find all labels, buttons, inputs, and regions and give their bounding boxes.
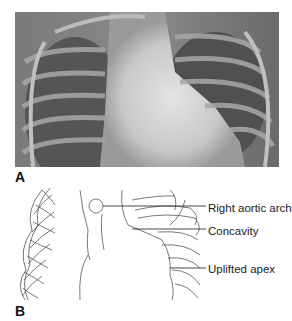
chest-radiograph-image (15, 12, 279, 167)
aortic-arch-circle (89, 199, 103, 213)
annotation-right-aortic-arch: Right aortic arch (208, 203, 292, 215)
left-ribs-drawing (20, 188, 55, 300)
panel-label-b: B (15, 304, 25, 318)
annotation-uplifted-apex: Uplifted apex (208, 264, 275, 276)
line-diagram (0, 180, 292, 305)
radiograph-graphic (15, 12, 279, 167)
annotation-concavity: Concavity (208, 226, 259, 238)
